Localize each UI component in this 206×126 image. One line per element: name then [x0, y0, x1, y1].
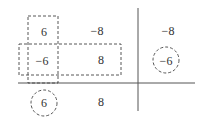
cell-r1-c2: −6	[160, 55, 173, 67]
dashed-row-box	[19, 44, 121, 75]
cell-r2-c0: 6	[41, 97, 47, 109]
cell-r1-c0: −6	[36, 55, 49, 67]
cell-r1-c1: 8	[98, 54, 104, 66]
cell-r0-c2: −8	[162, 25, 175, 37]
cell-r2-c1: 8	[98, 96, 104, 108]
cell-r0-c1: −8	[91, 25, 104, 37]
cell-r0-c0: 6	[41, 26, 47, 38]
